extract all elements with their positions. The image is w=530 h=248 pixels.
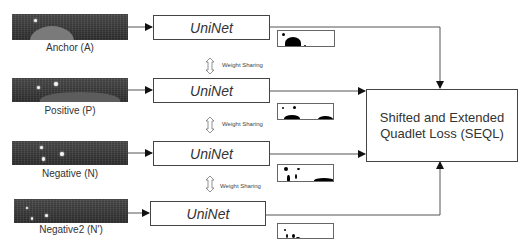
uninet-label: UniNet: [190, 83, 233, 99]
anchor-label: Anchor (A): [12, 42, 128, 53]
negative-image: [12, 141, 128, 165]
uninet-box-positive: UniNet: [153, 78, 270, 103]
uninet-label: UniNet: [190, 20, 233, 36]
uninet-label: UniNet: [190, 146, 233, 162]
weight-sharing-label-1: Weight Sharing: [222, 62, 263, 68]
output-map-anchor: [277, 30, 335, 47]
uninet-label: UniNet: [187, 206, 230, 222]
loss-title-line2: Quadlet Loss (SEQL): [380, 126, 504, 142]
output-map-negative2: [277, 223, 334, 239]
positive-label: Positive (P): [12, 105, 128, 116]
output-map-negative: [277, 164, 334, 182]
loss-title-line1: Shifted and Extended: [380, 110, 504, 126]
weight-sharing-label-3: Weight Sharing: [220, 183, 261, 189]
uninet-box-anchor: UniNet: [153, 15, 270, 40]
output-map-positive: [277, 103, 334, 120]
anchor-image: [12, 14, 128, 40]
uninet-box-negative: UniNet: [153, 141, 270, 166]
negative2-image: [14, 199, 128, 223]
uninet-box-negative2: UniNet: [150, 201, 266, 226]
seql-loss-box: Shifted and Extended Quadlet Loss (SEQL): [366, 89, 518, 162]
weight-sharing-label-2: Weight Sharing: [222, 121, 263, 127]
negative-label: Negative (N): [12, 168, 128, 179]
negative2-label: Negative2 (N'): [14, 224, 128, 235]
positive-image: [12, 78, 128, 102]
